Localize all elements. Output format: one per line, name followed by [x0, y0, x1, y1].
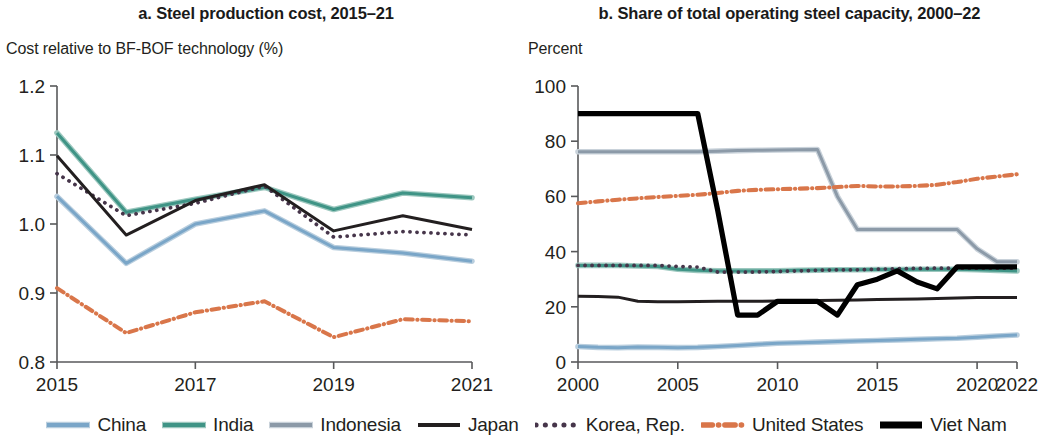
y-tick-label: 1.2: [19, 76, 45, 97]
legend-item-korea-rep-[interactable]: Korea, Rep.: [535, 414, 685, 436]
series-line-viet-nam: [578, 114, 1017, 315]
legend-swatch-viet-nam-icon: [879, 418, 923, 432]
y-tick-label: 1.0: [19, 214, 45, 235]
panel-a: a. Steel production cost, 2015–21 Cost r…: [0, 0, 520, 400]
legend-label: Japan: [468, 414, 519, 436]
legend-item-india[interactable]: India: [162, 414, 253, 436]
x-tick-label: 2021: [451, 374, 493, 395]
panel-b-plot: 020406080100200020052010201520202022: [520, 72, 1053, 400]
x-tick-label: 2000: [557, 374, 599, 395]
chart-legend: ChinaIndiaIndonesiaJapanKorea, Rep.Unite…: [0, 404, 1053, 446]
legend-item-indonesia[interactable]: Indonesia: [269, 414, 401, 436]
x-tick-label: 2020: [956, 374, 998, 395]
y-tick-label: 0: [555, 352, 566, 373]
legend-label: India: [213, 414, 253, 436]
legend-item-viet-nam[interactable]: Viet Nam: [879, 414, 1006, 436]
x-tick-label: 2019: [313, 374, 355, 395]
legend-label: Indonesia: [320, 414, 401, 436]
x-tick-label: 2017: [174, 374, 216, 395]
legend-item-japan[interactable]: Japan: [417, 414, 519, 436]
y-tick-label: 0.8: [19, 352, 45, 373]
legend-swatch-india-icon: [162, 418, 206, 432]
y-tick-label: 0.9: [19, 283, 45, 304]
legend-swatch-china-icon: [46, 418, 90, 432]
series-halo-indonesia: [578, 149, 1017, 261]
series-halo-india: [57, 133, 472, 212]
legend-item-china[interactable]: China: [46, 414, 146, 436]
y-tick-label: 40: [545, 242, 566, 263]
y-tick-label: 60: [545, 186, 566, 207]
panel-b: b. Share of total operating steel capaci…: [520, 0, 1053, 400]
panel-a-title: a. Steel production cost, 2015–21: [0, 4, 520, 23]
steel-figure: a. Steel production cost, 2015–21 Cost r…: [0, 0, 1053, 446]
series-line-united-states: [578, 174, 1017, 203]
series-line-united-states: [57, 288, 472, 337]
y-tick-label: 100: [534, 76, 566, 97]
panel-b-svg: 020406080100200020052010201520202022: [520, 72, 1053, 400]
panel-a-axis-unit: Cost relative to BF-BOF technology (%): [6, 40, 283, 58]
x-tick-label: 2015: [36, 374, 78, 395]
legend-label: Korea, Rep.: [586, 414, 685, 436]
y-tick-label: 80: [545, 131, 566, 152]
legend-label: Viet Nam: [930, 414, 1006, 436]
legend-label: China: [97, 414, 146, 436]
series-line-indonesia: [578, 149, 1017, 261]
panel-a-plot: 0.80.91.01.11.22015201720192021: [0, 72, 520, 400]
x-tick-label: 2022: [996, 374, 1038, 395]
x-tick-label: 2010: [756, 374, 798, 395]
legend-swatch-japan-icon: [417, 418, 461, 432]
panel-a-svg: 0.80.91.01.11.22015201720192021: [0, 72, 520, 400]
legend-label: United States: [752, 414, 863, 436]
x-tick-label: 2015: [856, 374, 898, 395]
x-tick-label: 2005: [657, 374, 699, 395]
y-tick-label: 1.1: [19, 145, 45, 166]
legend-swatch-indonesia-icon: [269, 418, 313, 432]
panel-b-axis-unit: Percent: [528, 40, 582, 58]
legend-item-united-states[interactable]: United States: [701, 414, 863, 436]
y-tick-label: 20: [545, 297, 566, 318]
legend-swatch-united-states-icon: [701, 418, 745, 432]
legend-swatch-korea-rep--icon: [535, 418, 579, 432]
panel-b-title: b. Share of total operating steel capaci…: [520, 4, 1053, 23]
